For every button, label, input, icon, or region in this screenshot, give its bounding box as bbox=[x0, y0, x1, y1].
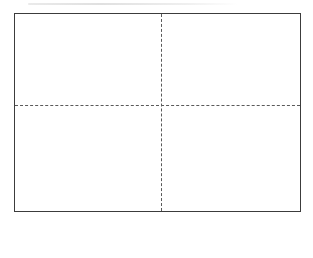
figure-frame bbox=[14, 13, 301, 212]
structure-svg-d bbox=[162, 106, 302, 212]
panel-a bbox=[15, 14, 161, 105]
panel-b bbox=[162, 14, 302, 105]
panel-c bbox=[15, 106, 161, 212]
atom-legend bbox=[14, 216, 301, 256]
structure-svg-c bbox=[15, 106, 161, 212]
structure-svg-b bbox=[162, 14, 302, 105]
scan-artifact-line bbox=[28, 3, 238, 5]
structure-svg-a bbox=[15, 14, 161, 105]
panel-d bbox=[162, 106, 302, 212]
